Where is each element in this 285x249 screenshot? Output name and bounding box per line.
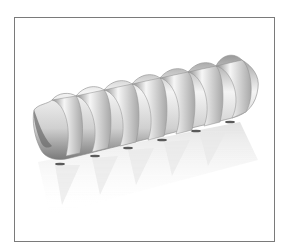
fusilli-pasta-illustration: [0, 0, 285, 249]
